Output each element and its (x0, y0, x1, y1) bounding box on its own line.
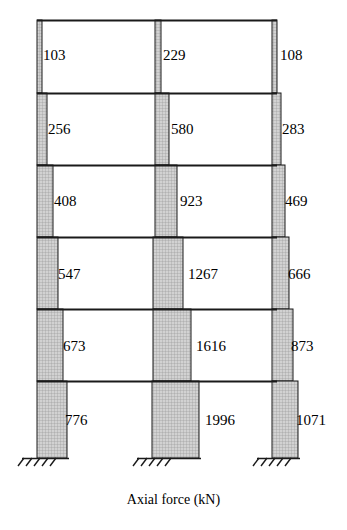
middle-column (152, 20, 199, 458)
support-right (253, 458, 300, 466)
axial-force-label-right-1: 108 (280, 48, 303, 63)
axial-force-label-right-5: 873 (291, 339, 314, 354)
axial-force-label-left-1: 103 (43, 48, 66, 63)
axial-force-label-middle-4: 1267 (188, 267, 218, 282)
axial-force-label-left-3: 408 (54, 194, 77, 209)
axial-force-label-middle-1: 229 (163, 48, 186, 63)
axial-force-label-middle-6: 1996 (205, 413, 235, 428)
axial-force-label-left-4: 547 (58, 267, 81, 282)
left-column (37, 20, 67, 458)
axial-force-label-middle-5: 1616 (196, 339, 226, 354)
figure-caption: Axial force (kN) (0, 492, 347, 508)
axial-force-label-right-4: 666 (288, 267, 311, 282)
axial-force-label-left-2: 256 (48, 122, 71, 137)
frame-structure-drawing (0, 0, 347, 530)
axial-force-label-right-3: 469 (285, 194, 308, 209)
axial-force-label-left-5: 673 (63, 339, 86, 354)
support-middle (133, 458, 201, 466)
support-left (18, 458, 69, 466)
axial-force-label-right-6: 1071 (296, 413, 326, 428)
axial-force-label-left-6: 776 (65, 413, 88, 428)
axial-force-label-middle-3: 923 (180, 194, 203, 209)
axial-force-label-right-2: 283 (282, 122, 305, 137)
axial-force-label-middle-2: 580 (171, 122, 194, 137)
axial-force-diagram: 103 256 408 547 673 776 229 580 923 1267… (0, 0, 347, 530)
right-column (272, 20, 298, 458)
